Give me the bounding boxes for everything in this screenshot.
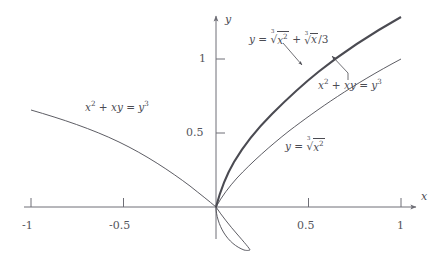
curve-approximation xyxy=(216,17,401,207)
approximation-plus: + xyxy=(292,33,301,45)
implicit-right-rhs-exponent: 3 xyxy=(377,77,382,86)
radicand-exponent: 2 xyxy=(319,139,324,148)
leader-approximation xyxy=(283,43,302,65)
label-approximation: y = 3√x2 + 3√x/3 xyxy=(249,31,328,45)
radicand: x2 xyxy=(313,138,325,152)
radicand-2: x xyxy=(310,33,318,45)
approximation-divisor: /3 xyxy=(318,33,328,45)
label-cube-root: y = 3√x2 xyxy=(285,138,325,152)
label-implicit-left: x2 + xy = y3 xyxy=(85,100,149,112)
y-tick-label-0.5: 0.5 xyxy=(186,127,204,138)
implicit-left-equals: = xyxy=(126,101,135,113)
y-tick-label-1: 1 xyxy=(199,53,206,64)
radicand-1: x2 xyxy=(277,31,289,45)
x-tick-label-0.5: 0.5 xyxy=(297,220,315,231)
math-figure: -1 -0.5 0.5 1 0.5 1 x y x2 + xy = y3 y =… xyxy=(0,0,445,254)
cube-root-radical: 3√x2 xyxy=(306,138,324,152)
leader-implicit-right xyxy=(332,56,348,73)
radical-index-2: 3 xyxy=(305,31,308,36)
implicit-right-lhs-exponent: 2 xyxy=(324,77,329,86)
x-axis-label: x xyxy=(421,191,427,202)
implicit-right-equals: = xyxy=(359,79,368,91)
implicit-left-mid: xy xyxy=(111,101,123,113)
label-implicit-right: x2 + xy = y3 xyxy=(318,78,382,90)
plot-canvas xyxy=(0,0,445,254)
curve-implicit-left-branch xyxy=(31,110,216,207)
cube-root-radical-2: 3√x xyxy=(304,33,318,45)
approximation-y: y xyxy=(249,33,255,45)
x-tick-label--0.5: -0.5 xyxy=(109,220,130,231)
approximation-equals: = xyxy=(258,33,267,45)
radicand-1-exponent: 2 xyxy=(283,32,288,41)
axes-group xyxy=(24,16,416,239)
cube-root-radical-1: 3√x2 xyxy=(270,31,288,45)
x-tick-label-1: 1 xyxy=(397,220,404,231)
y-axis-label: y xyxy=(225,14,231,25)
implicit-right-plus: + xyxy=(332,79,341,91)
radical-index: 3 xyxy=(307,136,310,141)
cube-root-equals: = xyxy=(294,140,303,152)
implicit-left-lhs-exponent: 2 xyxy=(91,99,96,108)
cube-root-y: y xyxy=(285,140,291,152)
implicit-left-rhs-exponent: 3 xyxy=(144,99,149,108)
curve-implicit-loop xyxy=(216,207,250,250)
implicit-right-mid: xy xyxy=(344,79,356,91)
implicit-left-plus: + xyxy=(99,101,108,113)
radical-index-1: 3 xyxy=(271,29,274,34)
x-tick-label--1: -1 xyxy=(22,220,33,231)
